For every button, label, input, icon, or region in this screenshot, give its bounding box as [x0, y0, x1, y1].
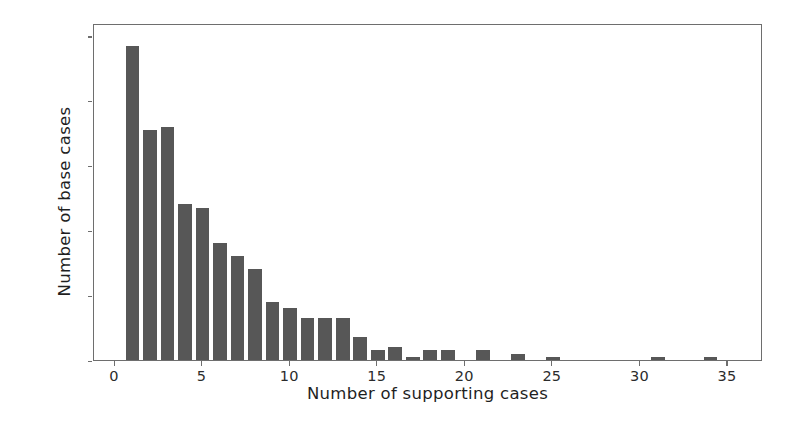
x-tick-mark — [639, 361, 640, 366]
bars-layer — [94, 25, 761, 360]
bar — [511, 354, 525, 360]
bar — [213, 243, 227, 360]
bar — [353, 337, 367, 360]
y-tick-mark — [88, 36, 92, 37]
bar — [406, 357, 420, 360]
bar — [143, 130, 157, 360]
bar — [546, 357, 560, 360]
x-tick-mark — [289, 361, 290, 366]
x-tick-label: 5 — [172, 368, 232, 384]
x-tick-label: 15 — [347, 368, 407, 384]
x-tick-mark — [726, 361, 727, 366]
bar — [161, 127, 175, 360]
bar — [476, 350, 490, 360]
y-tick-mark — [88, 361, 92, 362]
bar — [371, 350, 385, 360]
x-tick-mark — [201, 361, 202, 366]
bar — [266, 302, 280, 360]
bar — [423, 350, 437, 360]
histogram-figure: 020406080100 05101520253035 Number of su… — [0, 0, 795, 421]
x-tick-label: 25 — [522, 368, 582, 384]
bar — [248, 269, 262, 360]
x-tick-label: 20 — [434, 368, 494, 384]
bar — [651, 357, 665, 360]
x-tick-mark — [114, 361, 115, 366]
x-tick-label: 30 — [609, 368, 669, 384]
x-axis-label: Number of supporting cases — [93, 384, 762, 403]
y-axis-label: Number of base cases — [55, 32, 74, 372]
bar — [231, 256, 245, 360]
bar — [126, 46, 140, 360]
bar — [441, 350, 455, 360]
plot-area — [93, 24, 762, 361]
bar — [336, 318, 350, 360]
bar — [318, 318, 332, 360]
x-tick-mark — [464, 361, 465, 366]
bar — [178, 204, 192, 360]
x-tick-label: 35 — [697, 368, 757, 384]
bar — [388, 347, 402, 360]
x-tick-label: 0 — [84, 368, 144, 384]
bar — [196, 208, 210, 360]
x-tick-label: 10 — [259, 368, 319, 384]
bar — [283, 308, 297, 360]
y-tick-mark — [88, 296, 92, 297]
x-tick-mark — [376, 361, 377, 366]
y-tick-mark — [88, 166, 92, 167]
y-tick-mark — [88, 101, 92, 102]
y-tick-mark — [88, 231, 92, 232]
bar — [301, 318, 315, 360]
x-tick-mark — [551, 361, 552, 366]
bar — [704, 357, 718, 360]
